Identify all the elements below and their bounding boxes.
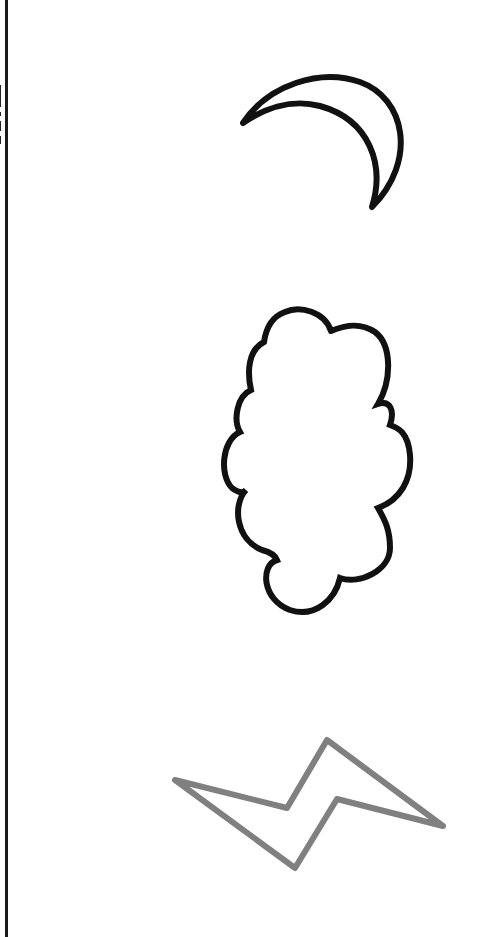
- shapes-canvas: [0, 0, 495, 937]
- crescent-moon-icon: [243, 77, 401, 207]
- cloud-icon: [224, 309, 410, 612]
- lightning-bolt-icon: [175, 740, 443, 868]
